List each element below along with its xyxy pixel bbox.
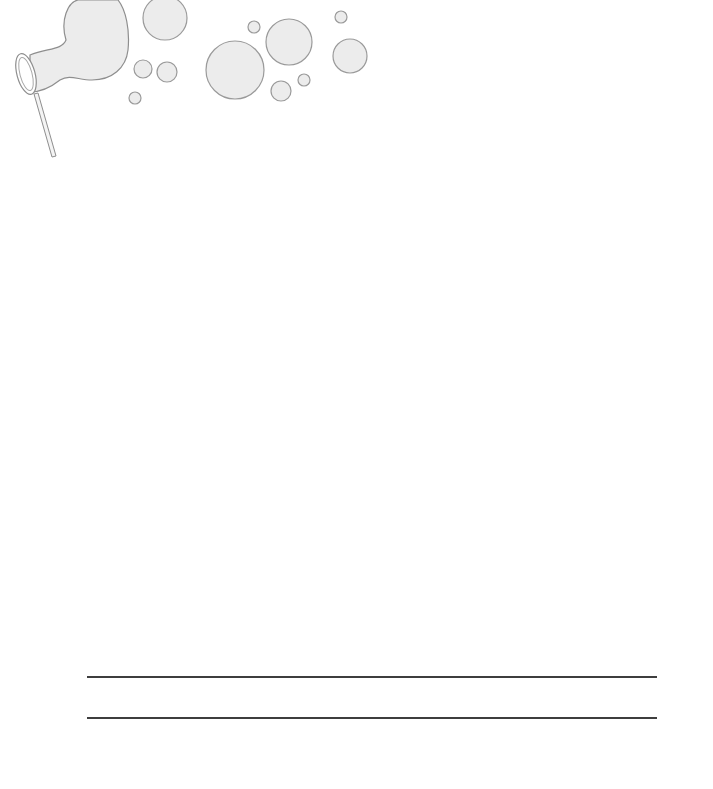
bubble	[333, 39, 367, 73]
bubble	[157, 62, 177, 82]
bubbles-group	[129, 0, 367, 104]
bubble	[143, 0, 187, 40]
bubble	[335, 11, 347, 23]
bubble	[206, 41, 264, 99]
bubble	[129, 92, 141, 104]
bubble	[248, 21, 260, 33]
bubble	[266, 19, 312, 65]
bubble	[271, 81, 291, 101]
bubble	[298, 74, 310, 86]
bubble-decoration	[0, 0, 380, 170]
bubble-wand-icon	[12, 0, 129, 157]
writing-line-1	[87, 676, 657, 678]
bubble	[134, 60, 152, 78]
writing-line-2	[87, 717, 657, 719]
